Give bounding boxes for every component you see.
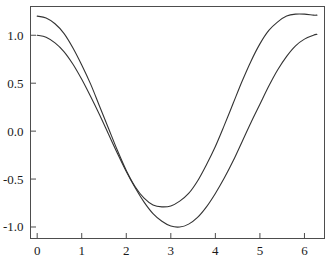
y-tick-label-1: 0.5	[7, 76, 23, 91]
x-tick-label-4: 4	[212, 243, 219, 258]
x-tick-label-1: 1	[78, 243, 85, 258]
x-tick-label-6: 6	[301, 243, 308, 258]
y-tick-label-3: -0.5	[3, 172, 24, 187]
chart-background	[0, 0, 334, 272]
x-tick-label-0: 0	[34, 243, 41, 258]
y-tick-label-0: 1.0	[7, 28, 23, 43]
y-tick-label-4: -1.0	[3, 219, 24, 234]
x-tick-label-3: 3	[168, 243, 175, 258]
chart-figure: 0123456 1.00.50.0-0.5-1.0	[0, 0, 334, 272]
x-tick-label-2: 2	[123, 243, 130, 258]
y-tick-label-2: 0.0	[7, 124, 23, 139]
x-tick-label-5: 5	[257, 243, 264, 258]
line-chart-plot: 0123456 1.00.50.0-0.5-1.0	[0, 0, 334, 272]
